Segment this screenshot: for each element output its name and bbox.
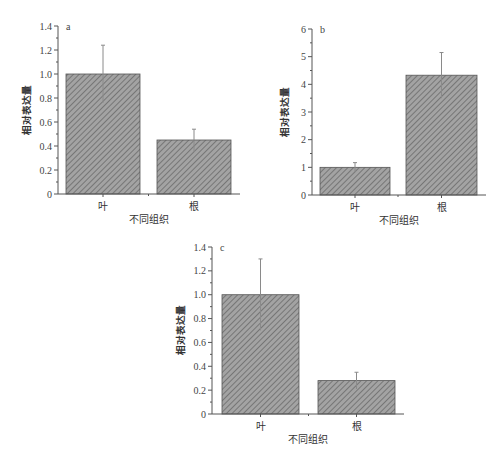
y-tick-label: 3 [301,107,306,118]
y-tick-label: 1.0 [194,289,207,300]
x-category-label: 叶 [256,421,266,432]
y-tick-label: 2 [301,134,306,145]
y-tick-label: 0 [301,190,306,201]
panel-letter: b [320,24,325,35]
y-tick-label: 1.2 [194,265,207,276]
y-tick-label: 0 [201,409,206,420]
y-tick-label: 1.4 [40,21,53,32]
y-tick-label: 0.4 [40,141,53,152]
y-tick-label: 1 [301,162,306,173]
y-axis-title: 相对表达量 [279,87,290,137]
y-tick-label: 5 [301,51,306,62]
x-category-label: 根 [352,420,362,432]
x-axis-title: 不同组织 [379,214,419,226]
y-tick-label: 4 [301,79,306,90]
y-tick-label: 6 [301,24,306,35]
y-tick-label: 1.4 [194,242,207,253]
x-axis-title: 不同组织 [288,433,328,445]
x-category-label: 根 [189,200,199,212]
y-tick-label: 0.4 [194,361,207,372]
y-axis-title: 相对表达量 [21,85,32,135]
chart-panel-a: 叶根00.20.40.60.81.01.21.4a不同组织相对表达量 [21,21,240,226]
x-category-label: 根 [437,201,447,213]
x-category-label: 叶 [98,201,108,212]
chart-panel-c: 叶根00.20.40.60.81.01.21.4c不同组织相对表达量 [175,242,404,446]
y-tick-label: 0 [47,189,52,200]
x-category-label: 叶 [350,202,360,213]
y-axis-title: 相对表达量 [175,305,186,355]
y-tick-label: 1.0 [40,69,53,80]
chart-panel-b: 叶根0123456b不同组织相对表达量 [279,24,486,227]
y-tick-label: 0.6 [40,117,53,128]
panel-letter: a [66,21,71,32]
y-tick-label: 1.2 [40,45,53,56]
y-tick-label: 0.8 [40,93,53,104]
y-tick-label: 0.8 [194,313,207,324]
panel-letter: c [220,242,225,253]
x-axis-title: 不同组织 [129,213,169,225]
y-tick-label: 0.6 [194,337,207,348]
figure-canvas: 叶根00.20.40.60.81.01.21.4a不同组织相对表达量叶根0123… [0,0,502,460]
y-tick-label: 0.2 [194,385,207,396]
y-tick-label: 0.2 [40,165,53,176]
